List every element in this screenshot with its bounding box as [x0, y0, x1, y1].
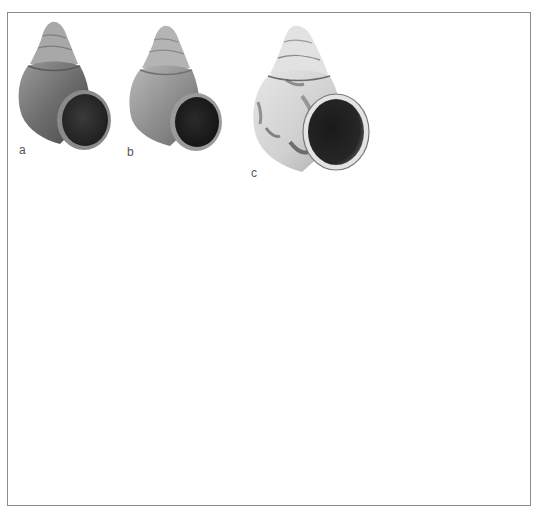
- shell-c-image: [250, 24, 372, 178]
- shell-specimen-b: [126, 24, 226, 154]
- shell-specimen-c: [250, 24, 372, 178]
- shell-specimen-a: [16, 20, 116, 152]
- figure-label-a: a: [19, 144, 26, 156]
- figure-label-c: c: [251, 167, 257, 179]
- shell-a-image: [16, 20, 116, 152]
- shell-b-image: [126, 24, 226, 154]
- figure-label-b: b: [127, 146, 134, 158]
